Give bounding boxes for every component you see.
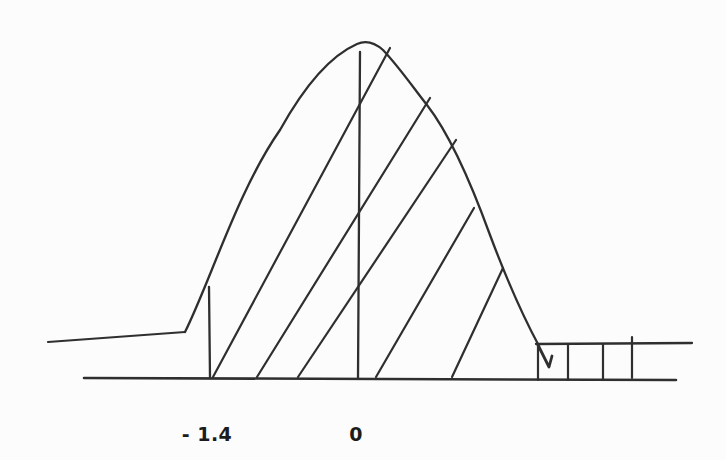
- left-tail-line: [48, 332, 185, 342]
- x-axis-baseline: [84, 378, 676, 380]
- hatch-diagonal-5: [452, 268, 503, 377]
- figure-canvas: - 1.4 0: [0, 0, 726, 460]
- x-tick-label-minus-1-4: - 1.4: [182, 423, 233, 445]
- curve-end-hook: [538, 345, 552, 367]
- hatch-diagonal-2: [257, 98, 430, 377]
- right-tail-top-line: [536, 343, 692, 344]
- bell-curve: [185, 42, 539, 346]
- hatch-diagonal-4: [376, 208, 474, 377]
- distribution-sketch: [0, 0, 726, 460]
- marker-line-minus-1-4: [209, 287, 210, 378]
- x-tick-label-zero: 0: [349, 423, 363, 445]
